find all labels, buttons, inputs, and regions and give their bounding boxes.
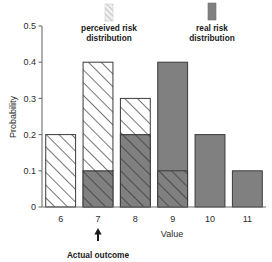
y-tick-label: 0.5 (23, 21, 36, 31)
y-axis-title: Probability (8, 95, 18, 138)
x-tick-label-9: 9 (170, 214, 175, 224)
x-tick-label-10: 10 (205, 214, 215, 224)
risk-distribution-chart: perceived risk distribution real risk di… (0, 0, 272, 262)
bar-overlap-8 (120, 135, 150, 207)
bar-perceived-6 (46, 135, 76, 207)
x-tick-label-7: 7 (95, 214, 100, 224)
x-tick-label-8: 8 (133, 214, 138, 224)
x-axis-title: Value (161, 229, 183, 239)
legend-label-perceived-risk-line1: perceived risk (81, 23, 137, 33)
y-tick-label: 0.3 (23, 94, 36, 104)
bar-real-11 (232, 171, 262, 207)
bar-perceived-7 (83, 62, 113, 171)
bar-real-10 (195, 135, 225, 207)
y-tick-label: 0.1 (23, 166, 36, 176)
y-tick-label: 0.2 (23, 130, 36, 140)
actual-outcome-label: Actual outcome (67, 250, 130, 260)
legend-swatch-perceived-risk (105, 4, 113, 21)
chart-svg: perceived risk distribution real risk di… (0, 0, 272, 262)
x-tick-label-11: 11 (243, 214, 252, 224)
legend-label-perceived-risk-line2: distribution (86, 33, 132, 43)
legend-swatch-real-risk (208, 3, 216, 20)
y-tick-label: 0.4 (23, 57, 36, 67)
bar-perceived-8 (120, 98, 150, 134)
y-tick-label: 0 (31, 202, 36, 212)
bar-overlap-7 (83, 171, 113, 207)
legend-label-real-risk-line2: distribution (189, 33, 235, 43)
bar-overlap-9 (158, 171, 188, 207)
legend-label-real-risk-line1: real risk (196, 23, 228, 33)
x-tick-label-6: 6 (58, 214, 63, 224)
